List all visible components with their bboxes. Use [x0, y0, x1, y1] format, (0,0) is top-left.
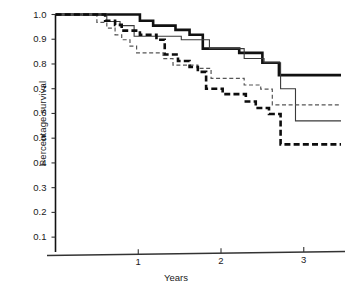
survival-chart: 0.10.20.30.40.50.60.70.80.91.0 123 Perce… [0, 0, 352, 294]
x-tick-label: 2 [211, 255, 231, 266]
x-axis-label: Years [0, 272, 352, 283]
plot-area [0, 0, 352, 294]
y-tick-label: 1.0 [21, 9, 47, 20]
y-tick-label: 0.1 [21, 231, 47, 242]
axis-lines [47, 14, 345, 256]
y-tick-label: 0.9 [21, 33, 47, 44]
y-axis-label: Percentage survival [37, 64, 48, 184]
x-tick-label: 1 [128, 256, 148, 267]
y-tick-label: 0.2 [21, 206, 47, 217]
series-line-thin-dashed [56, 15, 342, 105]
x-tick-label: 3 [294, 254, 314, 265]
series-layer [56, 15, 342, 145]
